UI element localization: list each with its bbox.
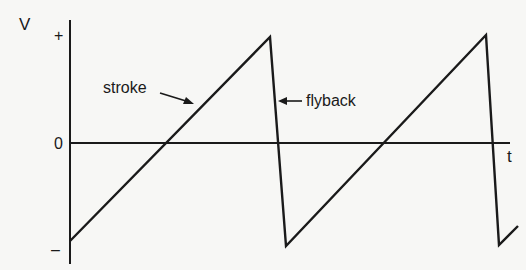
flyback-label: flyback	[306, 92, 357, 109]
tick-plus: +	[54, 27, 63, 44]
sawtooth-waveform	[70, 35, 518, 246]
x-axis-label: t	[507, 147, 512, 166]
sawtooth-diagram: V + 0 – t stroke flyback	[0, 0, 526, 270]
tick-zero: 0	[54, 135, 63, 152]
tick-minus: –	[51, 241, 60, 258]
flyback-arrowhead-icon	[278, 97, 287, 105]
y-axis-label: V	[19, 15, 31, 34]
stroke-arrow	[160, 93, 186, 101]
stroke-label: stroke	[103, 79, 147, 96]
stroke-arrowhead-icon	[183, 97, 194, 104]
